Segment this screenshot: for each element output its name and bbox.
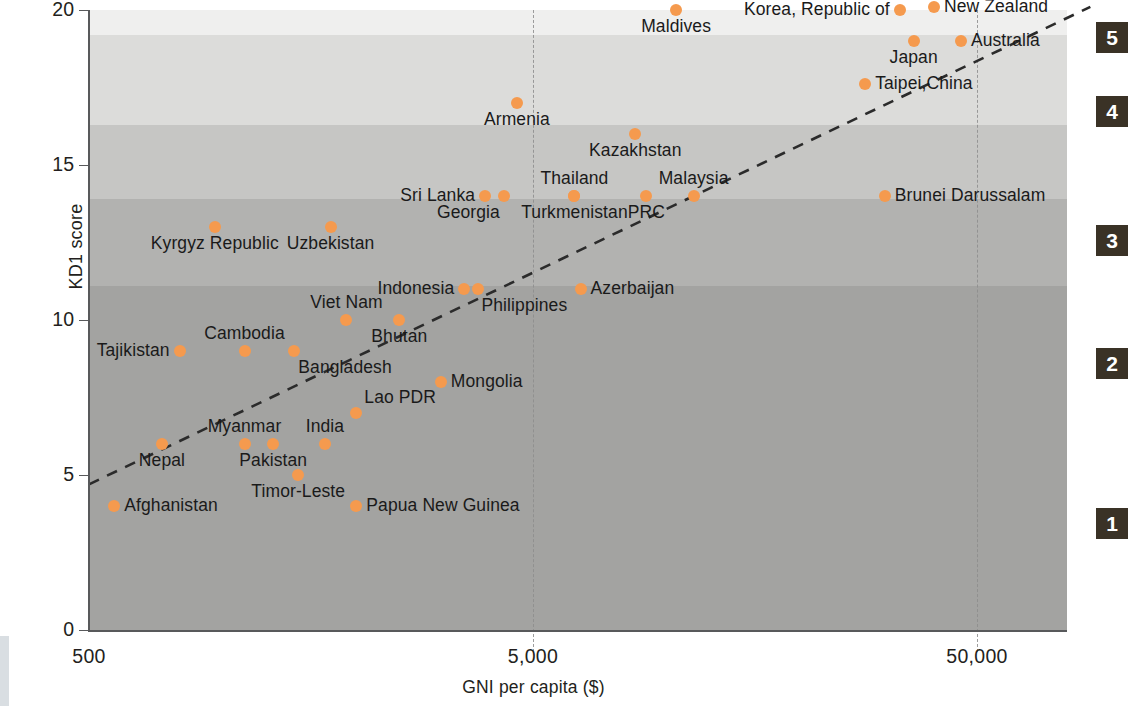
data-point xyxy=(340,314,352,326)
data-point xyxy=(292,469,304,481)
x-axis-line xyxy=(88,630,1067,632)
data-point xyxy=(239,345,251,357)
data-point xyxy=(435,376,447,388)
data-point xyxy=(629,128,641,140)
point-label: Lao PDR xyxy=(364,389,436,407)
x-tick-label: 500 xyxy=(72,645,105,668)
point-label: Taipei,China xyxy=(875,76,973,94)
plot-area: AfghanistanNepalTajikistanKyrgyz Republi… xyxy=(89,10,1067,630)
point-label: Timor-Leste xyxy=(251,483,345,501)
point-label: Thailand xyxy=(541,170,609,188)
point-label: Viet Nam xyxy=(310,294,382,312)
y-tick-label: 20 xyxy=(52,0,74,20)
point-label: Maldives xyxy=(641,18,711,36)
point-label: Pakistan xyxy=(239,452,307,470)
data-point xyxy=(859,78,871,90)
data-point xyxy=(209,221,221,233)
data-point xyxy=(239,438,251,450)
point-label: Afghanistan xyxy=(124,497,218,515)
point-label: Australia xyxy=(971,32,1040,50)
y-axis-title: KD1 score xyxy=(66,157,87,337)
data-point xyxy=(568,190,580,202)
data-point xyxy=(472,283,484,295)
band-marker-2: 2 xyxy=(1096,348,1128,379)
band-marker-3: 3 xyxy=(1096,225,1128,256)
point-label: Papua New Guinea xyxy=(366,497,519,515)
data-point xyxy=(108,500,120,512)
band-marker-1: 1 xyxy=(1096,508,1128,539)
x-tick-label: 50,000 xyxy=(946,645,1007,668)
data-point xyxy=(350,407,362,419)
point-label: Uzbekistan xyxy=(287,235,375,253)
y-tick xyxy=(79,630,88,631)
data-point xyxy=(393,314,405,326)
y-tick-label: 5 xyxy=(63,465,74,485)
chart-figure: AfghanistanNepalTajikistanKyrgyz Republi… xyxy=(0,0,1142,706)
y-tick xyxy=(79,475,88,476)
point-label: Armenia xyxy=(484,111,550,129)
data-point xyxy=(955,35,967,47)
data-point xyxy=(670,4,682,16)
y-tick xyxy=(79,10,88,11)
x-tick-label: 5,000 xyxy=(508,645,558,668)
data-point xyxy=(350,500,362,512)
data-point xyxy=(511,97,523,109)
band-marker-5: 5 xyxy=(1096,22,1128,53)
data-point xyxy=(894,4,906,16)
point-label: Tajikistan xyxy=(97,342,170,360)
point-label: Bhutan xyxy=(371,328,427,346)
point-label: New Zealand xyxy=(944,0,1048,16)
point-label: Philippines xyxy=(482,297,568,315)
point-label: Azerbaijan xyxy=(591,280,675,298)
point-label: Cambodia xyxy=(204,325,285,343)
data-point xyxy=(575,283,587,295)
data-point xyxy=(319,438,331,450)
band-marker-4: 4 xyxy=(1096,96,1128,127)
data-point xyxy=(156,438,168,450)
point-label: Myanmar xyxy=(208,418,282,436)
data-point xyxy=(479,190,491,202)
data-point xyxy=(288,345,300,357)
band-5 xyxy=(89,10,1067,35)
data-point xyxy=(498,190,510,202)
point-label: PRC xyxy=(628,204,665,222)
point-label: Georgia xyxy=(437,204,500,222)
y-axis-line xyxy=(88,10,90,631)
data-point xyxy=(458,283,470,295)
point-label: Turkmenistan xyxy=(521,204,628,222)
point-label: India xyxy=(306,418,344,436)
data-point xyxy=(325,221,337,233)
point-label: Kazakhstan xyxy=(589,142,681,160)
data-point xyxy=(879,190,891,202)
point-label: Nepal xyxy=(139,452,185,470)
point-label: Malaysia xyxy=(659,170,729,188)
point-label: Indonesia xyxy=(377,280,454,298)
point-label: Korea, Republic of xyxy=(744,1,890,19)
point-label: Brunei Darussalam xyxy=(895,187,1046,205)
gridline-5000 xyxy=(533,10,534,652)
data-point xyxy=(688,190,700,202)
gridline-50000 xyxy=(977,10,978,652)
point-label: Japan xyxy=(890,49,938,67)
data-point xyxy=(928,1,940,13)
point-label: Bangladesh xyxy=(298,359,391,377)
point-label: Mongolia xyxy=(451,373,523,391)
data-point xyxy=(174,345,186,357)
data-point xyxy=(640,190,652,202)
accent-bar xyxy=(0,636,9,706)
point-label: Kyrgyz Republic xyxy=(151,235,279,253)
y-tick-label: 0 xyxy=(63,620,74,640)
data-point xyxy=(267,438,279,450)
x-axis-title: GNI per capita ($) xyxy=(0,677,1067,698)
data-point xyxy=(908,35,920,47)
